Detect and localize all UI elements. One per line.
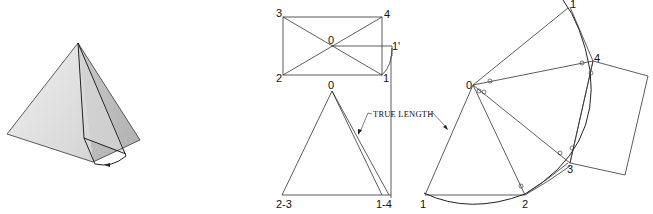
dev-label-1-top: 1 — [570, 0, 576, 10]
dev-label-3: 3 — [567, 163, 573, 175]
figure-svg: 3 4 0 1' 2 1 0 2-3 1-4 TRUE LENGTH — [0, 0, 653, 214]
pyramid-development-figure: 3 4 0 1' 2 1 0 2-3 1-4 TRUE LENGTH — [0, 0, 653, 214]
dev-label-4: 4 — [594, 52, 600, 64]
top-label-0: 0 — [328, 34, 334, 46]
arrow-icon — [443, 125, 448, 130]
front-label-right: 1-4 — [376, 198, 392, 210]
top-label-1prime: 1' — [392, 40, 400, 52]
dev-label-1-bottom: 1 — [420, 198, 426, 210]
true-length-callout: TRUE LENGTH — [373, 109, 434, 119]
top-label-2: 2 — [276, 72, 282, 84]
rotation-arrow-icon — [104, 163, 110, 167]
dev-label-2: 2 — [522, 198, 528, 210]
front-view: 0 2-3 1-4 TRUE LENGTH — [276, 79, 448, 210]
dev-label-apex: 0 — [466, 79, 472, 91]
top-label-1: 1 — [383, 72, 389, 84]
pictorial-pyramid — [7, 43, 140, 167]
top-label-4: 4 — [384, 8, 390, 20]
front-label-left: 2-3 — [276, 198, 292, 210]
arrow-icon — [358, 129, 362, 135]
development-pattern: 1 4 0 3 2 1 — [420, 0, 648, 210]
front-label-apex: 0 — [328, 79, 334, 91]
top-label-3: 3 — [276, 7, 282, 19]
